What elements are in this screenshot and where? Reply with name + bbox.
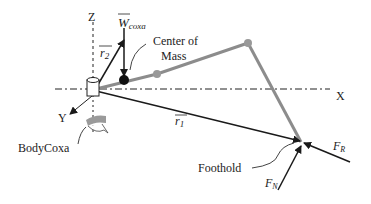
knee-joint: [244, 39, 252, 47]
svg-text:FN: FN: [264, 176, 278, 191]
center-of-mass-label-1: Center of: [153, 34, 198, 48]
rotation-icon: [86, 116, 106, 127]
center-of-mass-label-2: Mass: [161, 49, 187, 63]
foothold-pointer: [252, 143, 294, 168]
r1-label: r1: [175, 114, 187, 129]
tibia-segment: [248, 43, 301, 142]
f-r-label: FR: [332, 139, 345, 154]
com-pointer: [130, 44, 146, 70]
r2-label: r2: [99, 46, 112, 61]
svg-text:r1: r1: [175, 114, 184, 129]
body-coxa-joint: [87, 78, 99, 97]
f-n-label: FN: [264, 176, 278, 191]
femur-joint: [153, 70, 161, 78]
bodycoxa-label: BodyCoxa: [18, 141, 70, 155]
y-axis: [70, 96, 92, 114]
svg-text:FR: FR: [332, 139, 345, 154]
y-axis-label: Y: [58, 111, 67, 125]
z-axis-label: Z: [88, 10, 95, 24]
vector-f-n: [278, 146, 301, 190]
leg-force-diagram: Z X Y Wcoxa r2 r1 FR FN Center of Mass B…: [0, 0, 371, 204]
x-axis-label: X: [336, 89, 345, 103]
center-of-mass-point: [119, 75, 129, 85]
foothold-label: Foothold: [198, 161, 241, 175]
w-coxa-label: Wcoxa: [118, 14, 146, 31]
vector-r1: [96, 91, 300, 141]
bodycoxa-pointer: [78, 127, 86, 144]
svg-text:r2: r2: [100, 46, 110, 61]
svg-text:Wcoxa: Wcoxa: [118, 15, 146, 31]
